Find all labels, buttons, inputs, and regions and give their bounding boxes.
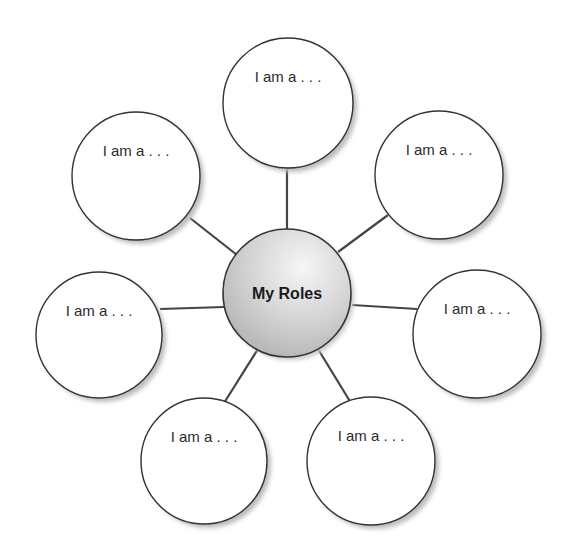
- center-node: My Roles: [223, 229, 354, 360]
- role-label: I am a . . .: [406, 141, 473, 158]
- role-label: I am a . . .: [255, 68, 322, 85]
- connector-line-bottom-left: [224, 349, 258, 403]
- role-label: I am a . . .: [444, 300, 511, 317]
- role-circle: [72, 112, 200, 240]
- role-circle: [413, 270, 541, 398]
- connector-line-bottom-right: [318, 349, 351, 403]
- role-node-bottom-right: I am a . . .: [307, 397, 439, 529]
- connector-line-upper-left: [190, 218, 237, 255]
- role-label: I am a . . .: [103, 142, 170, 159]
- connector-line-right: [352, 305, 417, 309]
- role-node-bottom-left: I am a . . .: [141, 398, 271, 528]
- role-node-upper-left: I am a . . .: [72, 112, 204, 244]
- role-label: I am a . . .: [338, 427, 405, 444]
- role-circle: [307, 397, 435, 525]
- role-node-upper-right: I am a . . .: [375, 111, 507, 243]
- role-circle: [223, 38, 353, 168]
- role-node-right: I am a . . .: [413, 270, 545, 402]
- connector-line-left: [160, 307, 224, 309]
- my-roles-diagram: I am a . . .I am a . . .I am a . . .I am…: [0, 0, 574, 547]
- role-node-top: I am a . . .: [223, 38, 357, 172]
- role-label: I am a . . .: [171, 428, 238, 445]
- role-circle: [141, 398, 267, 524]
- role-circle: [375, 111, 503, 239]
- role-node-left: I am a . . .: [36, 272, 166, 402]
- center-label: My Roles: [252, 285, 322, 302]
- connector-line-upper-right: [338, 215, 388, 252]
- role-circle: [36, 272, 162, 398]
- role-label: I am a . . .: [66, 302, 133, 319]
